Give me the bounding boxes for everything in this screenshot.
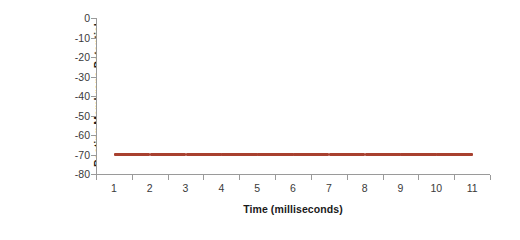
x-axis-tick-mark [383, 175, 384, 180]
y-axis-tick-label: -60 [50, 129, 90, 141]
x-axis-line [96, 174, 490, 175]
x-axis-tick-label: 11 [457, 182, 487, 194]
x-axis-tick-mark [239, 175, 240, 180]
y-axis-tick-labels: 0-10-20-30-40-50-60-70-80 [50, 18, 90, 174]
y-axis-tick-label: -20 [50, 51, 90, 63]
y-axis-tick-label: -10 [50, 32, 90, 44]
x-axis-tick-mark [96, 175, 97, 180]
x-axis-tick-label: 10 [421, 182, 451, 194]
x-axis-tick-label: 8 [350, 182, 380, 194]
x-axis-tick-label: 5 [242, 182, 272, 194]
x-axis-title: Time (milliseconds) [96, 203, 490, 215]
x-axis-tick-label: 3 [171, 182, 201, 194]
y-axis-tick-mark [91, 155, 96, 156]
x-axis-tick-mark [418, 175, 419, 180]
x-axis-tick-label: 4 [206, 182, 236, 194]
plot-area [96, 18, 490, 174]
x-axis-tick-label: 6 [278, 182, 308, 194]
x-axis-tick-mark [132, 175, 133, 180]
x-axis-tick-mark [490, 175, 491, 180]
x-axis-tick-labels: 1234567891011 [96, 182, 490, 198]
x-axis-tick-mark [203, 175, 204, 180]
chart-container: Resting Membrane Potential (mVolts) 0-10… [0, 0, 520, 240]
x-axis-tick-mark [275, 175, 276, 180]
x-axis-tick-mark [347, 175, 348, 180]
x-axis-tick-label: 7 [314, 182, 344, 194]
x-axis-tick-mark [311, 175, 312, 180]
y-axis-tick-mark [91, 135, 96, 136]
x-axis-tick-label: 2 [135, 182, 165, 194]
y-axis-tick-mark [91, 57, 96, 58]
y-axis-tick-mark [91, 38, 96, 39]
y-axis-tick-label: -40 [50, 90, 90, 102]
y-axis-tick-mark [91, 18, 96, 19]
y-axis-tick-mark [91, 116, 96, 117]
y-axis-tick-mark [91, 77, 96, 78]
x-axis-tick-label: 9 [385, 182, 415, 194]
y-axis-tick-label: 0 [50, 12, 90, 24]
y-axis-tick-label: -50 [50, 110, 90, 122]
x-axis-tick-mark [454, 175, 455, 180]
y-axis-tick-mark [91, 96, 96, 97]
y-axis-tick-label: -80 [50, 168, 90, 180]
x-axis-tick-mark [168, 175, 169, 180]
y-axis-tick-label: -70 [50, 149, 90, 161]
y-axis-tick-label: -30 [50, 71, 90, 83]
y-axis-line [96, 18, 97, 175]
x-axis-tick-label: 1 [99, 182, 129, 194]
